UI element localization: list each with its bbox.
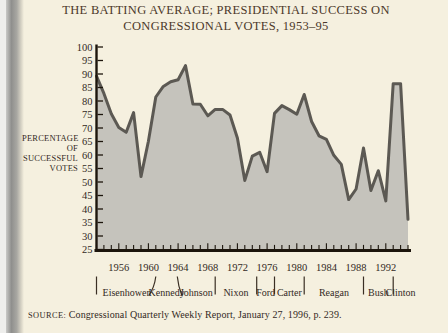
y-tick-label: 30 xyxy=(82,231,93,242)
president-label: Ford xyxy=(256,287,275,298)
y-tick-label: 60 xyxy=(82,150,93,161)
source-text: Congressional Quarterly Weekly Report, J… xyxy=(66,309,341,320)
source-note: SOURCE: Congressional Quarterly Weekly R… xyxy=(28,309,342,320)
y-tick-label: 70 xyxy=(82,123,93,134)
y-tick-label: 90 xyxy=(82,69,93,80)
x-tick-label: 1972 xyxy=(227,262,248,273)
y-tick-label: 25 xyxy=(82,244,93,255)
x-tick-label: 1976 xyxy=(257,262,278,273)
x-tick-label: 1980 xyxy=(286,262,307,273)
y-tick-label: 65 xyxy=(82,136,93,147)
y-tick-label: 50 xyxy=(82,177,93,188)
y-tick-label: 75 xyxy=(82,109,93,120)
y-tick-label: 85 xyxy=(82,82,93,93)
x-tick-label: 1964 xyxy=(168,262,190,273)
x-tick-label: 1956 xyxy=(108,262,129,273)
book-page: THE BATTING AVERAGE; PRESIDENTIAL SUCCES… xyxy=(0,0,448,333)
president-label: Carter xyxy=(277,287,303,298)
y-tick-label: 35 xyxy=(82,217,93,228)
x-tick-label: 1968 xyxy=(197,262,218,273)
area-chart: 1009590858075706560555045403530251956196… xyxy=(0,0,448,333)
y-tick-label: 45 xyxy=(82,190,93,201)
x-tick-label: 1988 xyxy=(346,262,367,273)
y-tick-label: 55 xyxy=(82,163,93,174)
president-label: Johnson xyxy=(180,287,213,298)
president-label: Clinton xyxy=(386,287,416,298)
x-tick-label: 1960 xyxy=(138,262,159,273)
y-tick-label: 95 xyxy=(82,55,93,66)
president-label: Reagan xyxy=(319,287,349,298)
y-tick-label: 100 xyxy=(77,42,93,53)
president-label: Nixon xyxy=(223,287,248,298)
x-tick-label: 1992 xyxy=(375,262,396,273)
president-label: Eisenhower xyxy=(103,287,151,298)
source-label: SOURCE: xyxy=(28,311,66,320)
y-tick-label: 40 xyxy=(82,204,93,215)
y-tick-label: 80 xyxy=(82,96,93,107)
x-tick-label: 1984 xyxy=(316,262,338,273)
